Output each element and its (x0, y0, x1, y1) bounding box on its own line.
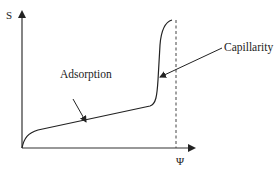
adsorption-arrow (73, 99, 86, 122)
y-axis-label: S (6, 9, 12, 21)
isotherm-curve (22, 20, 172, 148)
sorption-isotherm-diagram (0, 0, 277, 179)
x-axis-label: Ψ (176, 155, 184, 167)
capillarity-label: Capillarity (224, 41, 273, 53)
adsorption-label: Adsorption (60, 68, 112, 80)
capillarity-arrow (160, 48, 222, 77)
